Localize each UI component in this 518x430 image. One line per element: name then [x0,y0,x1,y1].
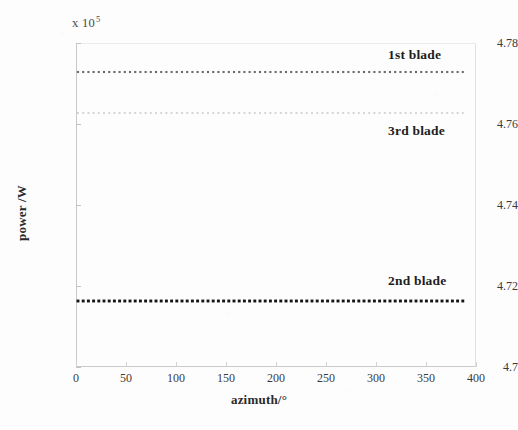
series-marker-group [0,297,518,305]
x-tick-mark [226,362,227,367]
x-tick-mark [326,362,327,367]
y-axis-multiplier-exponent: 5 [96,14,101,24]
chart-figure: x 105 4.74.724.744.764.78 05010015020025… [0,0,518,430]
x-tick-label: 400 [451,371,501,386]
series-marker-group [0,68,518,76]
data-series [0,297,518,305]
x-tick-mark [426,362,427,367]
y-tick-mark [76,367,81,368]
series-annotation-label: 2nd blade [388,273,446,289]
x-tick-label: 0 [51,371,101,386]
x-tick-mark [276,362,277,367]
x-tick-mark [76,362,77,367]
x-tick-label: 100 [151,371,201,386]
plot-area [76,43,476,367]
x-tick-mark [376,362,377,367]
y-tick-label: 4.76 [472,117,518,132]
x-tick-label: 200 [251,371,301,386]
x-tick-label: 250 [301,371,351,386]
x-tick-label: 300 [351,371,401,386]
series-marker-group [0,109,518,117]
y-tick-mark [76,205,81,206]
data-series [0,68,518,76]
data-series [0,109,518,117]
y-axis-multiplier-base: x 10 [72,16,95,30]
y-tick-label: 4.78 [472,36,518,51]
x-tick-label: 150 [201,371,251,386]
y-tick-mark [76,124,81,125]
y-axis-title: power /W [14,168,30,258]
series-annotation-label: 1st blade [388,47,441,63]
y-axis-multiplier: x 105 [72,14,101,31]
x-tick-label: 350 [401,371,451,386]
x-tick-mark [476,362,477,367]
y-tick-label: 4.72 [472,279,518,294]
y-tick-label: 4.74 [472,198,518,213]
x-tick-mark [176,362,177,367]
y-tick-mark [76,43,81,44]
x-tick-mark [126,362,127,367]
x-tick-label: 50 [101,371,151,386]
series-annotation-label: 3rd blade [388,123,445,139]
x-axis-title: azimuth/° [0,392,518,408]
y-tick-mark [76,286,81,287]
